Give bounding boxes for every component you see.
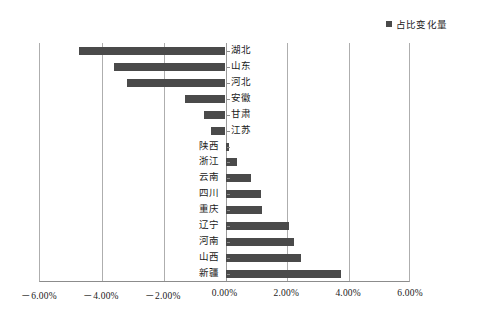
bar-chart: 占比变化量 湖北山东河北安徽甘肃江苏陕西浙江云南四川重庆辽宁河南山西新疆 －6.… bbox=[0, 0, 484, 323]
bar-row: 河南 bbox=[40, 234, 409, 250]
axis-tick bbox=[227, 194, 230, 195]
bar-row: 山西 bbox=[40, 250, 409, 266]
bar-甘肃 bbox=[204, 111, 226, 119]
bar-row: 甘肃 bbox=[40, 107, 409, 123]
legend-label: 占比变化量 bbox=[396, 17, 447, 31]
bar-山西 bbox=[226, 254, 302, 262]
bar-series: 湖北山东河北安徽甘肃江苏陕西浙江云南四川重庆辽宁河南山西新疆 bbox=[40, 43, 409, 281]
category-label-新疆: 新疆 bbox=[199, 269, 220, 279]
category-label-江苏: 江苏 bbox=[231, 126, 252, 136]
axis-tick bbox=[227, 178, 230, 179]
axis-tick bbox=[227, 162, 230, 163]
x-tick-label--2: －2.00% bbox=[145, 288, 181, 302]
x-axis-tick-labels: －6.00%－4.00%－2.00%0.00%2.00%4.00%6.00% bbox=[0, 288, 484, 308]
x-tick-label--6: －6.00% bbox=[21, 288, 57, 302]
bar-河北 bbox=[127, 79, 226, 87]
category-label-四川: 四川 bbox=[199, 189, 220, 199]
category-label-云南: 云南 bbox=[199, 173, 220, 183]
axis-tick bbox=[227, 258, 230, 259]
bar-row: 河北 bbox=[40, 75, 409, 91]
x-tick-label--4: －4.00% bbox=[83, 288, 119, 302]
axis-tick bbox=[227, 226, 230, 227]
bar-row: 新疆 bbox=[40, 266, 409, 282]
x-tick-label-0: 0.00% bbox=[212, 288, 238, 298]
axis-tick bbox=[227, 67, 230, 68]
bar-row: 云南 bbox=[40, 170, 409, 186]
bar-江苏 bbox=[211, 127, 226, 135]
axis-tick bbox=[227, 147, 230, 148]
category-label-山西: 山西 bbox=[199, 253, 220, 263]
category-label-河南: 河南 bbox=[199, 237, 220, 247]
bar-row: 四川 bbox=[40, 186, 409, 202]
legend-square-marker-icon bbox=[386, 21, 392, 27]
plot-area: 湖北山东河北安徽甘肃江苏陕西浙江云南四川重庆辽宁河南山西新疆 bbox=[39, 43, 410, 282]
axis-tick bbox=[227, 210, 230, 211]
bar-山东 bbox=[114, 63, 225, 71]
category-label-河北: 河北 bbox=[231, 78, 252, 88]
bar-重庆 bbox=[226, 206, 262, 214]
bar-row: 山东 bbox=[40, 59, 409, 75]
bar-row: 重庆 bbox=[40, 202, 409, 218]
category-label-安徽: 安徽 bbox=[231, 94, 252, 104]
bar-湖北 bbox=[79, 47, 226, 55]
bar-新疆 bbox=[226, 270, 342, 278]
axis-tick bbox=[227, 242, 230, 243]
bar-四川 bbox=[226, 190, 262, 198]
bar-row: 安徽 bbox=[40, 91, 409, 107]
bar-辽宁 bbox=[226, 222, 289, 230]
chart-legend: 占比变化量 bbox=[386, 17, 447, 31]
category-label-陕西: 陕西 bbox=[199, 142, 220, 152]
category-label-甘肃: 甘肃 bbox=[231, 110, 252, 120]
axis-tick bbox=[227, 274, 230, 275]
bar-row: 浙江 bbox=[40, 155, 409, 171]
category-label-重庆: 重庆 bbox=[199, 205, 220, 215]
axis-tick bbox=[227, 83, 230, 84]
axis-tick bbox=[227, 51, 230, 52]
category-label-湖北: 湖北 bbox=[231, 46, 252, 56]
bar-row: 江苏 bbox=[40, 123, 409, 139]
category-label-山东: 山东 bbox=[231, 62, 252, 72]
axis-tick bbox=[227, 99, 230, 100]
bar-row: 辽宁 bbox=[40, 218, 409, 234]
bar-row: 陕西 bbox=[40, 139, 409, 155]
x-tick-label-6: 6.00% bbox=[397, 288, 423, 298]
axis-tick bbox=[227, 115, 230, 116]
x-tick-label-4: 4.00% bbox=[335, 288, 361, 298]
category-label-浙江: 浙江 bbox=[199, 157, 220, 167]
bar-安徽 bbox=[185, 95, 225, 103]
bar-河南 bbox=[226, 238, 294, 246]
category-label-辽宁: 辽宁 bbox=[199, 221, 220, 231]
bar-row: 湖北 bbox=[40, 43, 409, 59]
axis-tick bbox=[227, 131, 230, 132]
x-tick-label-2: 2.00% bbox=[274, 288, 300, 298]
